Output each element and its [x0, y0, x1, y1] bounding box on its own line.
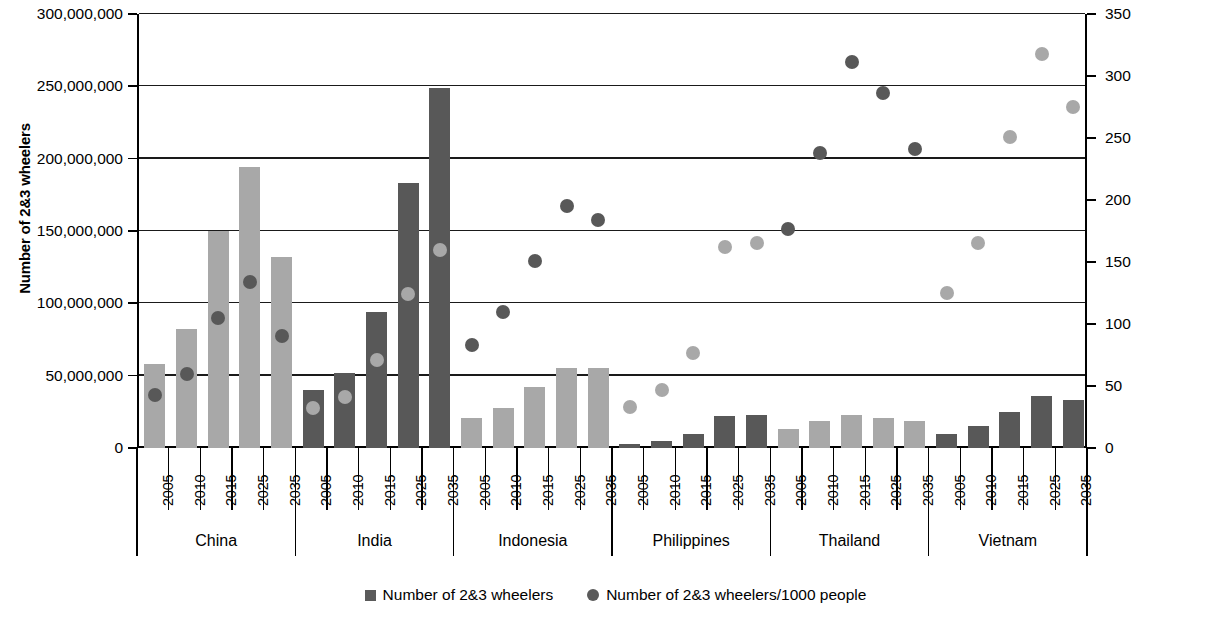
bar [366, 312, 387, 448]
data-point [623, 400, 637, 414]
data-point [750, 236, 764, 250]
bar [303, 390, 324, 448]
y-axis-left-tick-label: 100,000,000 [3, 295, 123, 311]
x-axis-year-label: 2025 [730, 475, 746, 506]
x-axis-year-label: 2015 [1015, 475, 1031, 506]
data-point [560, 199, 574, 213]
data-point [940, 286, 954, 300]
bar [809, 421, 830, 448]
y-axis-right-tick-label: 200 [1105, 192, 1131, 208]
x-axis-year-label: 2005 [793, 475, 809, 506]
legend-circle-icon [587, 589, 599, 601]
bar [398, 183, 419, 448]
x-axis-year-label: 2035 [1078, 475, 1094, 506]
data-point [338, 390, 352, 404]
y-axis-left-tick-mark [128, 302, 137, 304]
x-axis-year-label: 2010 [192, 475, 208, 506]
bar [144, 364, 165, 448]
y-axis-left-tick-label: 200,000,000 [3, 151, 123, 167]
y-axis-right-tick-mark [1087, 75, 1096, 77]
y-axis-right-tick-label: 150 [1105, 254, 1131, 270]
chart-legend: Number of 2&3 wheelersNumber of 2&3 whee… [0, 586, 1231, 604]
data-point [718, 240, 732, 254]
y-axis-right-tick-mark [1087, 199, 1096, 201]
data-point [1035, 47, 1049, 61]
legend-square-icon [365, 590, 376, 601]
y-axis-left-tick-label: 150,000,000 [3, 223, 123, 239]
data-point [180, 367, 194, 381]
x-axis-year-label: 2035 [762, 475, 778, 506]
y-axis-left-tick-mark [128, 230, 137, 232]
x-axis-group-label: Vietnam [929, 532, 1087, 550]
x-axis-year-label: 2015 [698, 475, 714, 506]
bar [271, 257, 292, 448]
data-point [908, 142, 922, 156]
y-axis-right-tick-label: 100 [1105, 316, 1131, 332]
bar [208, 231, 229, 448]
plot-area [137, 14, 1087, 448]
data-point [876, 86, 890, 100]
y-axis-left-tick-mark [128, 85, 137, 87]
x-axis-year-label: 2015 [540, 475, 556, 506]
data-point [655, 383, 669, 397]
data-point [591, 213, 605, 227]
data-point [781, 222, 795, 236]
bar [968, 426, 989, 448]
x-axis-group-label: Thailand [770, 532, 928, 550]
x-axis-year-label: 2025 [1047, 475, 1063, 506]
bar [461, 418, 482, 448]
data-point [1066, 100, 1080, 114]
chart-figure: Number of 2&3 wheelers Number of 2&3 whe… [0, 0, 1231, 619]
x-axis-year-label: 2010 [983, 475, 999, 506]
x-axis-year-label: 2010 [508, 475, 524, 506]
data-point [211, 311, 225, 325]
x-axis-year-label: 2025 [255, 475, 271, 506]
x-axis-group-label: Indonesia [454, 532, 612, 550]
bar [334, 373, 355, 448]
legend-item: Number of 2&3 wheelers/1000 people [587, 586, 866, 604]
data-point [306, 401, 320, 415]
x-axis-year-label: 2035 [445, 475, 461, 506]
bar [873, 418, 894, 448]
x-axis-year-label: 2005 [160, 475, 176, 506]
data-point [845, 55, 859, 69]
x-axis-year-label: 2005 [318, 475, 334, 506]
y-axis-right-tick-label: 50 [1105, 378, 1122, 394]
bar [524, 387, 545, 448]
y-axis-right-tick-label: 350 [1105, 6, 1131, 22]
x-axis-year-label: 2010 [350, 475, 366, 506]
data-point [465, 338, 479, 352]
bar [778, 429, 799, 448]
x-axis: 2005201020152025203520052010201520252035… [137, 448, 1087, 558]
bar [1063, 400, 1084, 448]
y-axis-left-tick-mark [128, 375, 137, 377]
bar [493, 408, 514, 449]
y-axis-right-tick-mark [1087, 447, 1096, 449]
data-point [148, 388, 162, 402]
data-point [401, 287, 415, 301]
x-axis-year-label: 2015 [382, 475, 398, 506]
y-axis-left-title: Number of 2&3 wheelers [16, 99, 33, 319]
data-point [433, 243, 447, 257]
x-axis-group-label: India [295, 532, 453, 550]
gridline [139, 85, 1085, 87]
y-axis-left-tick-label: 300,000,000 [3, 6, 123, 22]
bar [556, 368, 577, 448]
y-axis-left-tick-label: 50,000,000 [3, 368, 123, 384]
x-axis-year-label: 2035 [287, 475, 303, 506]
gridline [139, 157, 1085, 159]
gridline [139, 230, 1085, 232]
y-axis-right-tick-mark [1087, 385, 1096, 387]
y-axis-right-tick-mark [1087, 13, 1096, 15]
legend-label: Number of 2&3 wheelers [383, 586, 554, 604]
data-point [370, 353, 384, 367]
x-axis-year-label: 2025 [888, 475, 904, 506]
data-point [528, 254, 542, 268]
y-axis-right-tick-label: 250 [1105, 130, 1131, 146]
bar [714, 416, 735, 448]
bar [1031, 396, 1052, 448]
data-point [686, 346, 700, 360]
y-axis-left-tick-label: 250,000,000 [3, 78, 123, 94]
data-point [813, 146, 827, 160]
bar [429, 88, 450, 448]
